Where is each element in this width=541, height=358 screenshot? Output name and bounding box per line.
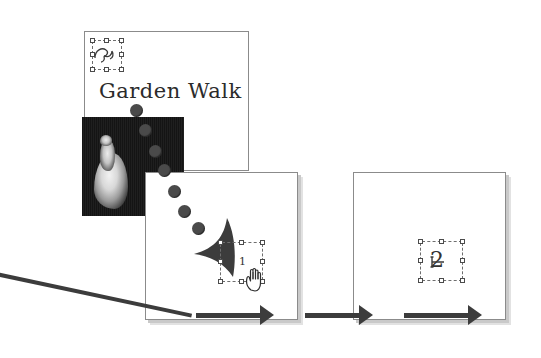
drag-trail-dot [158, 164, 171, 177]
insertion-caret-icon [430, 256, 450, 270]
drag-trail-dot [130, 104, 143, 117]
flow-arrow-1-shaft [196, 313, 262, 318]
flow-arrow-1-head [260, 305, 274, 325]
selection-handle-se[interactable] [460, 278, 465, 283]
flow-arrow-3-head [468, 305, 482, 325]
selection-handle-w[interactable] [418, 258, 423, 263]
selection-handle-n[interactable] [439, 239, 444, 244]
selection-handle-ne[interactable] [260, 240, 265, 245]
drag-trail-dot [149, 145, 162, 158]
sketch-glyph-icon [90, 38, 124, 72]
page-title: Garden Walk [99, 79, 242, 103]
selection-handle-n[interactable] [239, 240, 244, 245]
drag-trail-dot [168, 185, 181, 198]
selection-handle-sw[interactable] [218, 279, 223, 284]
selection-handle-nw[interactable] [418, 239, 423, 244]
selection-handle-sw[interactable] [418, 278, 423, 283]
flow-arrow-3-shaft [404, 313, 470, 318]
selection-handle-nw[interactable] [218, 240, 223, 245]
selection-handle-e[interactable] [260, 259, 265, 264]
figure-canvas: Garden Walk 1 [0, 0, 541, 358]
selection-handle-ne[interactable] [460, 239, 465, 244]
grabbing-hand-cursor-icon [244, 266, 270, 294]
selection-handle-e[interactable] [460, 258, 465, 263]
photo-subject-head [100, 135, 112, 146]
flow-arrow-2-shaft [305, 313, 361, 318]
selection-box-back-page[interactable] [90, 38, 124, 72]
selection-handle-w[interactable] [218, 259, 223, 264]
flow-arrow-2-head [359, 305, 373, 325]
selection-box-right-page[interactable]: 2 [418, 239, 466, 283]
drag-trail-dot [139, 124, 152, 137]
selection-handle-s[interactable] [439, 278, 444, 283]
